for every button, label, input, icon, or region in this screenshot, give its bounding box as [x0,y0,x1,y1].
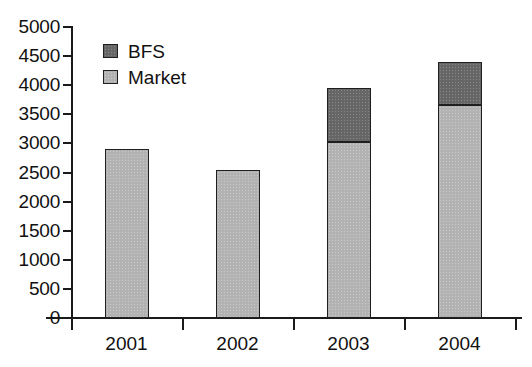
y-axis-tick [63,84,72,86]
y-axis-tick-label: 5000 [0,17,60,36]
x-axis-category-label: 2002 [198,334,278,354]
y-axis-tick-label: 3500 [0,104,60,123]
bar-segment-market [216,170,260,318]
x-axis-tick [404,319,406,330]
chart-legend: BFSMarket [103,38,186,90]
legend-label: Market [128,68,186,87]
bar-segment-market [327,142,371,318]
y-axis-tick [63,201,72,203]
y-axis-tick [63,55,72,57]
legend-item: Market [103,64,186,90]
y-axis-tick-label: 4000 [0,75,60,94]
y-axis-tick [63,259,72,261]
x-axis-tick [293,319,295,330]
y-axis-tick-label: 1000 [0,250,60,269]
bar-chart: 0500100015002000250030003500400045005000… [0,0,532,367]
y-axis-tick-label: 1500 [0,221,60,240]
bar-segment-bfs [327,88,371,142]
y-axis-tick-label: 500 [0,279,60,298]
bar-stack [216,27,260,318]
y-axis-tick [63,26,72,28]
y-axis-tick-label: 2500 [0,163,60,182]
legend-item: BFS [103,38,186,64]
y-axis-tick-label: 0 [0,308,60,327]
bar-stack [327,27,371,318]
x-axis-tick [515,319,517,330]
y-axis-tick [63,172,72,174]
y-axis-tick-label: 2000 [0,192,60,211]
bar-segment-market [105,149,149,318]
x-axis-tick [71,319,73,330]
legend-label: BFS [128,42,165,61]
legend-swatch-icon [103,70,118,84]
legend-swatch-icon [103,44,118,58]
y-axis-tick-label: 4500 [0,46,60,65]
y-axis-tick [63,113,72,115]
y-axis-tick [63,142,72,144]
bar-segment-market [438,105,482,318]
bar-segment-bfs [438,62,482,105]
x-axis-category-label: 2003 [309,334,389,354]
x-axis-tick [182,319,184,330]
y-axis-tick-label: 3000 [0,133,60,152]
y-axis-tick [63,288,72,290]
x-axis-category-label: 2001 [87,334,167,354]
x-axis-category-label: 2004 [420,334,500,354]
y-axis-tick [63,230,72,232]
bar-stack [438,27,482,318]
